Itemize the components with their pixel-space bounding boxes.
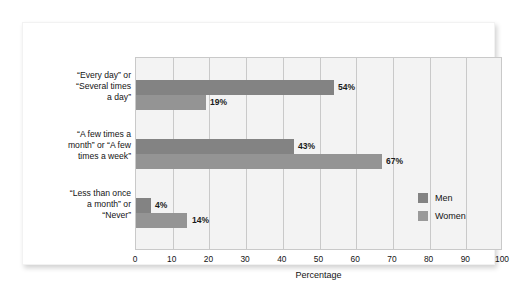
bar-men-2 <box>136 198 151 213</box>
value-label-men-0: 54% <box>338 80 355 95</box>
xtick-10: 10 <box>157 254 187 264</box>
x-axis-title: Percentage <box>135 270 502 280</box>
legend-label-men: Men <box>435 193 453 203</box>
xtick-30: 30 <box>230 254 260 264</box>
xtick-20: 20 <box>193 254 223 264</box>
legend-swatch-men-icon <box>418 193 428 203</box>
value-label-men-2: 4% <box>155 198 167 213</box>
legend-item-women: Women <box>418 207 466 225</box>
bar-men-0 <box>136 80 334 95</box>
xtick-90: 90 <box>450 254 480 264</box>
xtick-60: 60 <box>340 254 370 264</box>
bar-women-1 <box>136 154 382 169</box>
xtick-40: 40 <box>267 254 297 264</box>
xtick-70: 70 <box>377 254 407 264</box>
chart-card: “Every day” or “Several times a day” “A … <box>22 22 495 265</box>
legend-label-women: Women <box>435 211 466 221</box>
value-label-men-1: 43% <box>298 139 315 154</box>
category-label-1: “A few times a month” or “A few times a … <box>27 129 131 163</box>
chart-screenshot: “Every day” or “Several times a day” “A … <box>0 0 514 286</box>
bar-women-0 <box>136 95 206 110</box>
xtick-80: 80 <box>414 254 444 264</box>
bar-men-1 <box>136 139 294 154</box>
bar-women-2 <box>136 213 187 228</box>
legend-swatch-women-icon <box>418 211 428 221</box>
legend: Men Women <box>418 189 466 225</box>
category-label-2: “Less than once a month” or “Never” <box>27 188 131 222</box>
value-label-women-2: 14% <box>192 213 209 228</box>
value-label-women-1: 67% <box>386 154 403 169</box>
xtick-0: 0 <box>120 254 150 264</box>
gridline-90 <box>466 58 467 249</box>
value-label-women-0: 19% <box>210 95 227 110</box>
xtick-100: 100 <box>487 254 514 264</box>
category-axis-labels: “Every day” or “Several times a day” “A … <box>22 22 131 265</box>
legend-item-men: Men <box>418 189 466 207</box>
xtick-50: 50 <box>304 254 334 264</box>
category-label-0: “Every day” or “Several times a day” <box>27 70 131 104</box>
